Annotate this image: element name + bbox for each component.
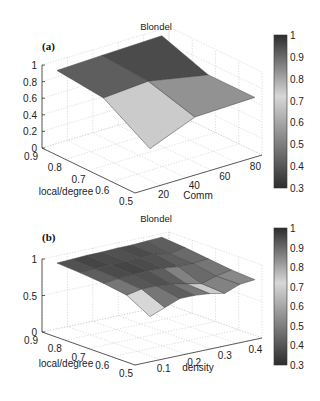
chart-panel-a: 00.20.40.60.810.90.80.70.60.520406080loc…: [23, 21, 304, 207]
z-tick-label: 1: [31, 60, 37, 71]
y-tick-label: 0.6: [95, 360, 109, 371]
colorbar-tick-label: 0.7: [290, 282, 304, 293]
z-tick-label: 0.6: [23, 93, 37, 104]
panel-label: (a): [42, 40, 55, 53]
panel-label: (b): [42, 231, 56, 244]
y-axis-label: local/degree: [39, 358, 94, 369]
colorbar-tick-label: 0.8: [290, 74, 304, 85]
z-tick-label: 0.5: [23, 291, 37, 302]
colorbar-tick-label: 0.4: [290, 161, 304, 172]
colorbar-tick-label: 1: [290, 30, 296, 41]
colorbar-tick-label: 0.5: [290, 321, 304, 332]
y-tick-label: 0.5: [119, 196, 133, 207]
x-tick-label: 20: [158, 189, 170, 200]
figure: 00.20.40.60.810.90.80.70.60.520406080loc…: [0, 0, 320, 401]
x-axis-label: density: [182, 362, 214, 373]
x-tick-label: 80: [250, 161, 262, 172]
colorbar-tick-label: 0.9: [290, 52, 304, 63]
colorbar: [274, 35, 287, 188]
colorbar-tick-label: 0.3: [290, 183, 304, 194]
y-tick-label: 0.8: [48, 162, 62, 173]
z-tick-label: 0.8: [23, 77, 37, 88]
z-tick-label: 0.4: [23, 110, 37, 121]
y-axis-label: local/degree: [39, 186, 94, 197]
colorbar-tick-label: 1: [290, 223, 296, 234]
chart-title: Blondel: [140, 21, 172, 32]
colorbar-tick-label: 0.4: [290, 340, 304, 351]
x-tick-label: 0.3: [218, 350, 232, 361]
z-tick-label: 1: [31, 254, 37, 265]
y-tick-label: 0.8: [48, 343, 62, 354]
z-tick-label: 0.2: [23, 126, 37, 137]
colorbar-tick-label: 0.5: [290, 139, 304, 150]
colorbar-tick-label: 0.8: [290, 262, 304, 273]
x-tick-label: 60: [219, 171, 231, 182]
x-axis-label: Comm: [183, 190, 212, 201]
y-tick-label: 0.9: [24, 335, 38, 346]
colorbar-tick-label: 0.3: [290, 360, 304, 371]
x-tick-label: 0.4: [248, 344, 262, 355]
y-tick-label: 0.7: [72, 174, 86, 185]
chart-title: Blondel: [140, 213, 172, 224]
x-tick-label: 0.1: [157, 363, 171, 374]
colorbar-tick-label: 0.9: [290, 243, 304, 254]
colorbar-tick-label: 0.6: [290, 301, 304, 312]
colorbar-tick-label: 0.6: [290, 117, 304, 128]
colorbar: [274, 228, 287, 365]
y-tick-label: 0.9: [24, 151, 38, 162]
y-tick-label: 0.6: [95, 185, 109, 196]
chart-panel-b: 00.510.90.80.70.60.50.10.20.30.4local/de…: [23, 213, 304, 379]
y-tick-label: 0.5: [119, 368, 133, 379]
colorbar-tick-label: 0.7: [290, 96, 304, 107]
